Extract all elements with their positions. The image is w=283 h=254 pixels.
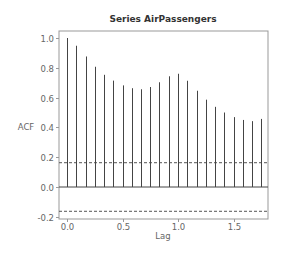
x-axis: 0.00.51.01.5: [61, 219, 242, 232]
x-tick-label: 0.5: [117, 222, 131, 232]
plot-frame: [59, 31, 268, 219]
y-tick-label: 0.0: [40, 183, 54, 193]
x-tick-label: 1.5: [228, 222, 242, 232]
y-tick-label: 1.0: [40, 34, 54, 44]
y-axis: -0.20.00.20.40.60.81.0: [37, 34, 59, 223]
acf-chart: Series AirPassengers -0.20.00.20.40.60.8…: [0, 0, 283, 254]
x-axis-label: Lag: [155, 231, 170, 241]
x-tick-label: 1.0: [172, 222, 186, 232]
y-tick-label: -0.2: [37, 213, 54, 223]
y-axis-label: ACF: [18, 122, 35, 132]
chart-title: Series AirPassengers: [109, 14, 216, 24]
y-tick-label: 0.8: [40, 64, 54, 74]
plot-area: [59, 31, 268, 219]
y-tick-label: 0.2: [40, 153, 54, 163]
x-tick-label: 0.0: [61, 222, 75, 232]
y-tick-label: 0.4: [40, 123, 54, 133]
y-tick-label: 0.6: [40, 94, 54, 104]
